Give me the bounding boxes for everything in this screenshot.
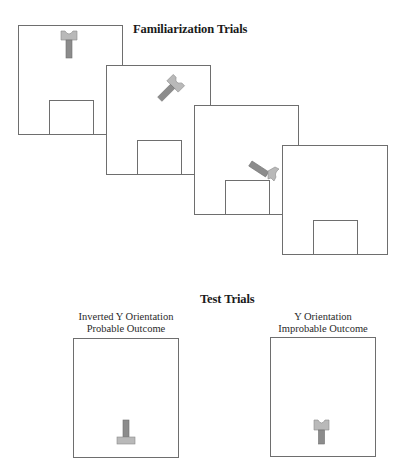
- test-panel-1-label: Inverted Y Orientation Probable Outcome: [66, 311, 186, 335]
- inverted-y-object-icon: [117, 420, 135, 444]
- familiarization-panel-4: [282, 145, 388, 255]
- container-box: [49, 100, 94, 135]
- familiarization-title: Familiarization Trials: [133, 22, 247, 37]
- container-box: [313, 220, 358, 255]
- label-line-1: Y Orientation: [263, 311, 383, 323]
- test-panel-2-label: Y Orientation Improbable Outcome: [263, 311, 383, 335]
- label-line-1: Inverted Y Orientation: [66, 311, 186, 323]
- y-object-icon: [154, 74, 184, 106]
- label-line-2: Improbable Outcome: [263, 323, 383, 335]
- y-object-icon: [314, 420, 329, 444]
- y-object-icon: [61, 31, 77, 59]
- y-object-stem-icon: [244, 155, 284, 189]
- label-line-2: Probable Outcome: [66, 323, 186, 335]
- container-box: [137, 140, 182, 175]
- test-trials-title: Test Trials: [200, 292, 255, 307]
